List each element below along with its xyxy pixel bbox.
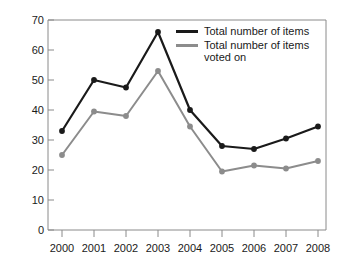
data-point [219, 143, 225, 149]
y-axis-label-50: 50 [22, 75, 44, 86]
line-chart: 70 60 50 40 30 20 10 0 2000 2001 2002 20… [0, 0, 338, 273]
x-axis-ticks [62, 230, 318, 237]
legend-label-total-items-voted-on: Total number of items voted on [204, 39, 332, 63]
y-axis-label-40: 40 [22, 105, 44, 116]
y-axis-label-10: 10 [22, 195, 44, 206]
data-point [315, 158, 321, 164]
data-point [219, 169, 225, 175]
y-axis-label-30: 30 [22, 135, 44, 146]
data-point [187, 124, 193, 130]
y-axis-label-70: 70 [22, 15, 44, 26]
line-swatch-black-icon [176, 26, 198, 37]
data-point [59, 128, 65, 134]
data-point [91, 109, 97, 115]
line-swatch-gray-icon [176, 40, 198, 51]
data-point [155, 68, 161, 74]
data-point [187, 107, 193, 113]
legend-label-total-items: Total number of items [204, 25, 309, 37]
data-point [59, 152, 65, 158]
legend-item-total-items-voted-on: Total number of items voted on [176, 39, 334, 63]
y-axis-label-60: 60 [22, 45, 44, 56]
data-point [283, 166, 289, 172]
data-point [251, 146, 257, 152]
data-point [123, 113, 129, 119]
series-total-items-voted-on [59, 68, 321, 174]
y-axis-label-20: 20 [22, 165, 44, 176]
chart-legend: Total number of items Total number of it… [172, 20, 336, 70]
series-line [62, 71, 318, 172]
x-axis-label-2008: 2008 [296, 243, 338, 254]
data-point [283, 136, 289, 142]
data-point [91, 77, 97, 83]
y-axis-ticks [48, 20, 54, 230]
data-point [315, 124, 321, 130]
y-axis-label-0: 0 [22, 225, 44, 236]
data-point [155, 29, 161, 35]
data-point [251, 163, 257, 169]
data-point [123, 85, 129, 91]
legend-item-total-items: Total number of items [176, 25, 334, 37]
